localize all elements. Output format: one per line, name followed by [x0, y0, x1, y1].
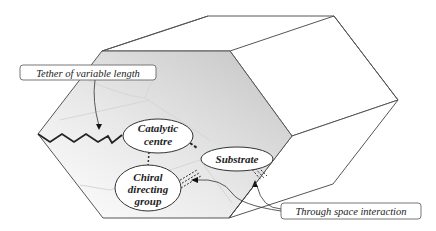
through-space-label: Through space interaction — [295, 206, 406, 217]
tether-label: Tether of variable length — [36, 68, 140, 79]
svg-text:Chiral: Chiral — [133, 171, 163, 183]
diagram-canvas: Tether of variable length Through space … — [0, 0, 436, 231]
svg-text:Catalytic: Catalytic — [138, 122, 178, 134]
node-substrate: Substrate — [201, 147, 273, 171]
svg-text:centre: centre — [144, 135, 172, 147]
svg-text:group: group — [134, 195, 162, 207]
node-chiral-directing-group: Chiral directing group — [115, 165, 181, 211]
svg-text:directing: directing — [128, 183, 169, 195]
node-catalytic-centre: Catalytic centre — [123, 119, 193, 153]
svg-text:Substrate: Substrate — [216, 153, 259, 165]
